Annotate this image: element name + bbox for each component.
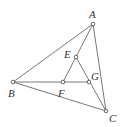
label-c: C	[109, 112, 117, 124]
point-f	[61, 80, 65, 84]
point-c	[104, 109, 108, 113]
label-a: A	[88, 8, 96, 20]
label-f: F	[57, 87, 65, 99]
point-a	[91, 22, 95, 26]
geometry-diagram: ABCEFG	[0, 0, 124, 127]
segment-ac	[93, 24, 106, 111]
point-e	[74, 55, 78, 59]
segment-ab	[13, 24, 93, 82]
label-g: G	[91, 70, 99, 82]
label-e: E	[63, 48, 71, 60]
labels: ABCEFG	[8, 8, 117, 124]
point-b	[11, 80, 15, 84]
points	[11, 22, 108, 113]
label-b: B	[8, 87, 15, 99]
